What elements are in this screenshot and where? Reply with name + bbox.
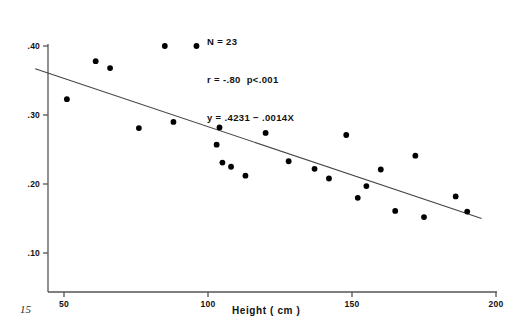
statistics-annotation: N = 23 r = -.80 p<.001 y = .4231 − .0014… <box>207 11 294 150</box>
y-axis-tick-label: .30 <box>12 110 40 120</box>
scatter-plot-figure: N = 23 r = -.80 p<.001 y = .4231 − .0014… <box>0 0 525 335</box>
annotation-sample-size: N = 23 <box>207 36 294 49</box>
scatter-point <box>93 58 99 64</box>
scatter-point <box>326 176 332 182</box>
x-axis-tick-label: 200 <box>481 299 511 309</box>
annotation-equation: y = .4231 − .0014X <box>207 112 294 125</box>
scatter-point <box>136 125 142 131</box>
x-axis-tick-label: 50 <box>49 299 79 309</box>
scatter-point <box>220 160 226 166</box>
scatter-point <box>286 158 292 164</box>
x-axis-tick-label: 150 <box>337 299 367 309</box>
scatter-point <box>378 167 384 173</box>
scatter-point <box>364 183 370 189</box>
scatter-point <box>392 208 398 214</box>
annotation-correlation: r = -.80 p<.001 <box>207 74 294 87</box>
scatter-point <box>171 119 177 125</box>
x-axis-tick-label: 100 <box>193 299 223 309</box>
y-axis-tick-label: .10 <box>12 248 40 258</box>
scatter-point <box>312 166 318 172</box>
scatter-point <box>343 132 349 138</box>
scatter-point <box>453 194 459 200</box>
y-axis-tick-label: .20 <box>12 179 40 189</box>
scatter-point <box>107 65 113 71</box>
x-axis-label: Height ( cm ) <box>232 305 300 316</box>
scatter-point <box>228 164 234 170</box>
scatter-point <box>464 209 470 215</box>
y-axis-tick-label: .40 <box>12 41 40 51</box>
scatter-point <box>64 96 70 102</box>
scatter-point <box>421 214 427 220</box>
scatter-point <box>194 43 200 49</box>
scatter-point <box>243 173 249 179</box>
page-folio-number: 15 <box>20 303 31 315</box>
scatter-point <box>412 153 418 159</box>
scatter-point <box>355 195 361 201</box>
scatter-point <box>162 43 168 49</box>
